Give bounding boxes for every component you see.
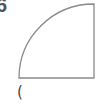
quarter-circle-outline (19, 4, 94, 78)
answer-parenthesis: ( (17, 83, 23, 101)
